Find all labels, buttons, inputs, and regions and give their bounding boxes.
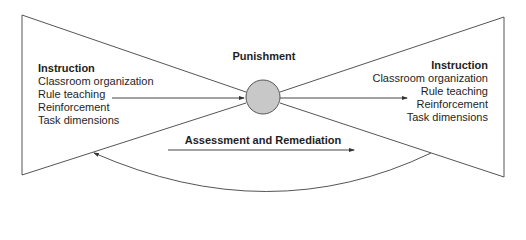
right-instruction-block: Instruction Classroom organization Rule …	[372, 59, 488, 124]
punishment-label: Punishment	[214, 50, 314, 63]
right-instruction-title: Instruction	[372, 59, 488, 72]
feedback-curve-arrow	[94, 153, 431, 192]
right-item-rule-teaching: Rule teaching	[372, 85, 488, 98]
right-item-task-dimensions: Task dimensions	[372, 111, 488, 124]
left-instruction-title: Instruction	[38, 62, 154, 75]
right-item-classroom-organization: Classroom organization	[372, 72, 488, 85]
left-item-rule-teaching: Rule teaching	[38, 88, 154, 101]
left-item-task-dimensions: Task dimensions	[38, 114, 154, 127]
right-item-reinforcement: Reinforcement	[372, 98, 488, 111]
left-item-classroom-organization: Classroom organization	[38, 75, 154, 88]
punishment-node-circle	[246, 80, 280, 114]
left-item-reinforcement: Reinforcement	[38, 101, 154, 114]
assessment-remediation-label: Assessment and Remediation	[168, 134, 358, 147]
left-instruction-block: Instruction Classroom organization Rule …	[38, 62, 154, 127]
